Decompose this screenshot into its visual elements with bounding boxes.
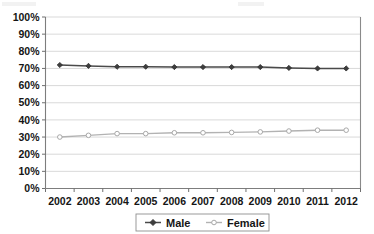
data-point-marker [229, 130, 234, 135]
y-tick-label: 60% [18, 79, 40, 91]
line-chart: 0%10%20%30%40%50%60%70%80%90%100% 200220… [0, 0, 374, 234]
data-point-marker [143, 131, 148, 136]
chart-canvas: 0%10%20%30%40%50%60%70%80%90%100% 200220… [0, 0, 374, 234]
data-point-marker [58, 135, 63, 140]
y-tick-label: 20% [18, 148, 40, 160]
y-tick-label: 10% [18, 165, 40, 177]
data-point-marker [172, 64, 177, 69]
scan-artifacts [2, 2, 264, 6]
legend-male-label: Male [166, 217, 190, 229]
data-point-marker [229, 64, 234, 69]
y-tick-label: 40% [18, 114, 40, 126]
data-point-marker [57, 62, 62, 67]
data-point-marker [258, 130, 263, 135]
legend-female-marker-icon [212, 220, 217, 225]
data-point-marker [86, 63, 91, 68]
y-gridlines [46, 17, 361, 171]
x-tick-label: 2007 [191, 195, 215, 207]
x-tick-label: 2009 [249, 195, 273, 207]
y-tick-label: 0% [24, 182, 40, 194]
y-tick-labels: 0%10%20%30%40%50%60%70%80%90%100% [13, 11, 41, 195]
data-point-marker [315, 128, 320, 133]
x-tick-label: 2006 [163, 195, 187, 207]
y-tick-label: 100% [13, 11, 41, 23]
y-tick-label: 30% [18, 131, 40, 143]
chart-legend: Male Female [136, 214, 269, 231]
x-tick-label: 2011 [306, 195, 329, 207]
data-point-marker [201, 130, 206, 135]
x-tick-label: 2010 [277, 195, 301, 207]
legend-female-label: Female [227, 217, 265, 229]
data-point-marker [86, 133, 91, 138]
data-point-marker [200, 64, 205, 69]
series-male [57, 62, 349, 71]
x-tick-label: 2002 [48, 195, 72, 207]
series-female [58, 128, 349, 139]
data-point-marker [344, 66, 349, 71]
data-point-marker [115, 131, 120, 136]
data-point-marker [315, 66, 320, 71]
x-tick-labels: 2002200320042005200620072008200920102011… [48, 195, 358, 207]
y-tick-label: 80% [18, 45, 40, 57]
x-tick-label: 2008 [220, 195, 244, 207]
x-tick-label: 2004 [105, 195, 129, 207]
data-point-marker [286, 65, 291, 70]
y-tick-label: 50% [18, 96, 40, 108]
data-point-marker [172, 130, 177, 135]
data-point-marker [287, 129, 292, 134]
data-point-marker [258, 64, 263, 69]
x-tick-label: 2012 [335, 195, 359, 207]
x-tick-label: 2003 [77, 195, 101, 207]
y-tick-label: 70% [18, 62, 40, 74]
x-tick-label: 2005 [134, 195, 158, 207]
y-tick-label: 90% [18, 28, 40, 40]
data-point-marker [344, 128, 349, 133]
